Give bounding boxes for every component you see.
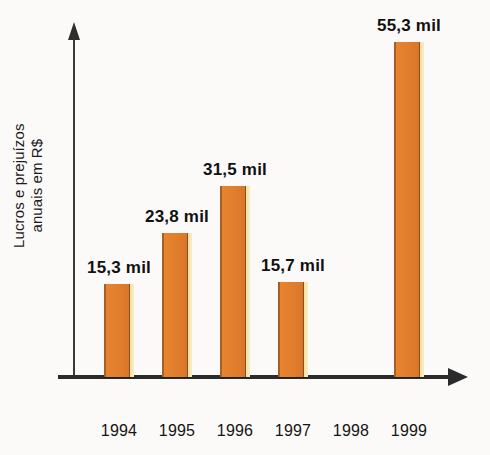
- bar-1997[interactable]: [278, 282, 308, 377]
- bar-1999[interactable]: [394, 42, 424, 377]
- bar-1995[interactable]: [162, 233, 192, 377]
- bar-1994[interactable]: [104, 284, 134, 377]
- bar-value-label-1997: 15,7 mil: [233, 256, 353, 276]
- x-tick-label-1997: 1997: [265, 422, 321, 440]
- bar-value-label-1996: 31,5 mil: [175, 160, 295, 180]
- x-tick-label-1994: 1994: [91, 422, 147, 440]
- x-tick-label-1996: 1996: [207, 422, 263, 440]
- x-tick-label-1998: 1998: [323, 422, 379, 440]
- bar-value-label-1995: 23,8 mil: [117, 207, 237, 227]
- bar-1996[interactable]: [220, 186, 250, 377]
- x-tick-label-1995: 1995: [149, 422, 205, 440]
- bar-chart: Lucros e prejuízos anuais em R$ 15,3 mil…: [0, 0, 490, 455]
- bar-value-label-1999: 55,3 mil: [349, 16, 469, 36]
- bar-value-label-1994: 15,3 mil: [59, 258, 179, 278]
- plot-area: 15,3 mil199423,8 mil199531,5 mil199615,7…: [0, 0, 490, 455]
- x-tick-label-1999: 1999: [381, 422, 437, 440]
